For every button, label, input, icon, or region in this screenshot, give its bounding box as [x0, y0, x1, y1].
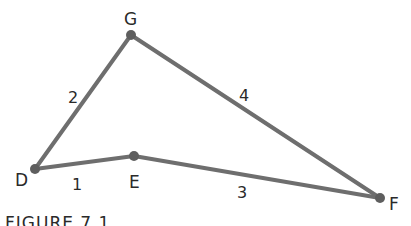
vertex-label-e: E: [129, 172, 140, 192]
edge-label-e-f: 3: [237, 183, 247, 202]
vertex-label-g: G: [124, 9, 137, 29]
edge-label-d-e: 1: [72, 175, 82, 194]
figure-caption: FIGURE 7.1: [5, 213, 110, 226]
graph-diagram: G D E F 1 2 3 4: [0, 0, 411, 226]
edge-label-g-f: 4: [239, 86, 249, 105]
vertices: [30, 30, 385, 203]
vertex-e: [129, 151, 139, 161]
vertex-label-f: F: [389, 194, 399, 214]
edge-g-f: [131, 35, 380, 198]
edge-labels: 1 2 3 4: [68, 86, 249, 202]
vertex-f: [375, 193, 385, 203]
edge-e-f: [134, 156, 380, 198]
vertex-g: [126, 30, 136, 40]
edge-label-d-g: 2: [68, 88, 78, 107]
edges: [35, 35, 380, 198]
vertex-d: [30, 164, 40, 174]
edge-d-e: [35, 156, 134, 169]
vertex-label-d: D: [15, 170, 28, 190]
edge-d-g: [35, 35, 131, 169]
